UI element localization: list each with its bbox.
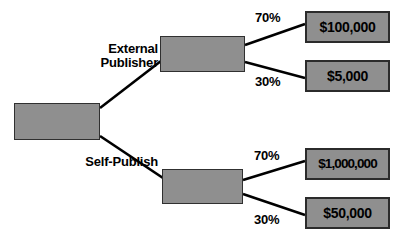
decision-tree-diagram: $100,000 $5,000 $1,000,000 $50,000 Exter… (0, 0, 401, 242)
probability-label-external-30: 30% (255, 75, 280, 88)
probability-label-external-70: 70% (255, 11, 280, 24)
outcome-box-50k[interactable]: $50,000 (305, 197, 390, 229)
decision-label-self-publish: Self-Publish (42, 155, 158, 169)
outcome-value-5k: $5,000 (327, 69, 368, 83)
outcome-box-100k[interactable]: $100,000 (305, 11, 390, 43)
edge-self-70 (243, 161, 305, 180)
outcome-box-5k[interactable]: $5,000 (305, 60, 390, 92)
probability-label-self-30: 30% (254, 213, 279, 226)
outcome-box-1m[interactable]: $1,000,000 (305, 148, 390, 180)
outcome-value-50k: $50,000 (323, 206, 372, 220)
chance-node-external[interactable] (160, 36, 245, 72)
root-node[interactable] (14, 103, 100, 140)
decision-label-external-publisher: External Publisher (68, 42, 158, 70)
outcome-value-100k: $100,000 (320, 20, 376, 34)
outcome-value-1m: $1,000,000 (318, 157, 377, 171)
probability-label-self-70: 70% (254, 149, 279, 162)
chance-node-self[interactable] (162, 169, 243, 204)
edge-external-70 (245, 24, 305, 45)
